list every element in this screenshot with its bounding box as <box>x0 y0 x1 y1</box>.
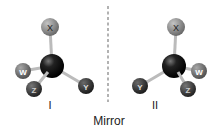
molecule-label-I: I <box>48 99 51 111</box>
atom-center <box>162 54 186 78</box>
mirror-caption: Mirror <box>93 114 124 128</box>
molecule-II: X Y W Z <box>132 18 207 97</box>
atom-center <box>40 54 64 78</box>
molecule-label-II: II <box>152 99 158 111</box>
svg-text:Z: Z <box>32 86 37 95</box>
svg-text:W: W <box>195 68 203 77</box>
svg-text:W: W <box>19 68 27 77</box>
svg-text:Y: Y <box>137 83 143 92</box>
svg-text:X: X <box>47 23 53 33</box>
molecule-I: X W Y Z <box>15 18 94 97</box>
svg-text:X: X <box>173 23 179 33</box>
svg-text:Z: Z <box>186 86 191 95</box>
svg-text:Y: Y <box>83 83 89 92</box>
